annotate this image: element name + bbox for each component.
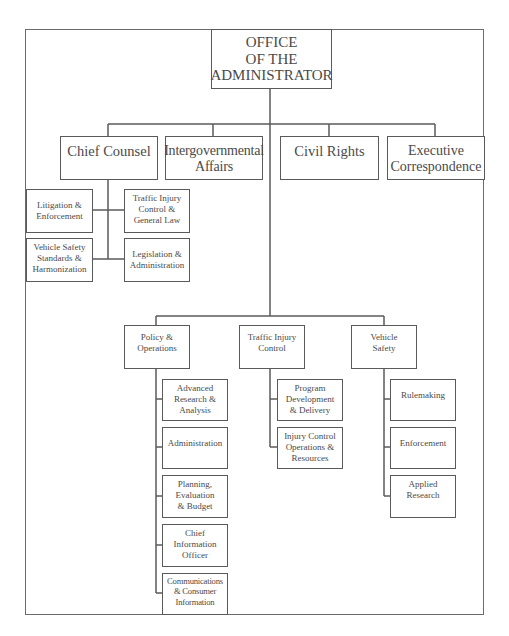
traffic-injury-control-box: Traffic Injury Control bbox=[239, 325, 305, 369]
chief-information-officer-box: Chief Information Officer bbox=[162, 524, 228, 567]
rulemaking-box: Rulemaking bbox=[390, 379, 456, 421]
vehicle-safety-standards-harmonization-label: Vehicle Safety Standards & Harmonization bbox=[33, 242, 87, 275]
advanced-research-analysis-label: Advanced Research & Analysis bbox=[174, 383, 216, 416]
executive-correspondence-label: Executive Correspondence bbox=[391, 143, 482, 175]
policy-operations-box: Policy & Operations bbox=[124, 325, 190, 369]
policy-operations-label: Policy & Operations bbox=[137, 332, 177, 354]
communications-consumer-information-box: Communications & Consumer Information bbox=[162, 573, 228, 615]
legislation-administration-box: Legislation & Administration bbox=[124, 238, 190, 282]
administration-box: Administration bbox=[162, 427, 228, 469]
traffic-injury-control-general-law-label: Traffic Injury Control & General Law bbox=[133, 193, 182, 226]
planning-evaluation-budget-box: Planning, Evaluation & Budget bbox=[162, 475, 228, 518]
administration-label: Administration bbox=[168, 438, 223, 449]
injury-control-operations-resources-box: Injury Control Operations & Resources bbox=[277, 427, 343, 469]
program-development-delivery-label: Program Development & Delivery bbox=[286, 383, 335, 416]
applied-research-label: Applied Research bbox=[407, 479, 440, 501]
office-of-the-administrator-box: OFFICE OF THE ADMINISTRATOR bbox=[211, 29, 332, 89]
program-development-delivery-box: Program Development & Delivery bbox=[277, 379, 343, 421]
intergovernmental-affairs-box: Intergovernmental Affairs bbox=[165, 136, 263, 180]
planning-evaluation-budget-label: Planning, Evaluation & Budget bbox=[176, 479, 215, 512]
vehicle-safety-label: Vehicle Safety bbox=[371, 332, 398, 354]
traffic-injury-control-label: Traffic Injury Control bbox=[248, 332, 297, 354]
advanced-research-analysis-box: Advanced Research & Analysis bbox=[162, 379, 228, 421]
enforcement-label: Enforcement bbox=[400, 438, 446, 449]
chief-information-officer-label: Chief Information Officer bbox=[174, 528, 217, 561]
connector-lines bbox=[0, 0, 509, 636]
communications-consumer-information-label: Communications & Consumer Information bbox=[167, 576, 223, 607]
chief-counsel-label: Chief Counsel bbox=[67, 143, 150, 160]
rulemaking-label: Rulemaking bbox=[401, 390, 445, 401]
litigation-enforcement-box: Litigation & Enforcement bbox=[26, 189, 93, 233]
clipped-caption bbox=[25, 631, 425, 636]
vehicle-safety-standards-harmonization-box: Vehicle Safety Standards & Harmonization bbox=[26, 238, 93, 282]
litigation-enforcement-label: Litigation & Enforcement bbox=[36, 200, 82, 222]
vehicle-safety-box: Vehicle Safety bbox=[351, 325, 417, 369]
traffic-injury-control-general-law-box: Traffic Injury Control & General Law bbox=[124, 189, 190, 233]
executive-correspondence-box: Executive Correspondence bbox=[387, 136, 485, 180]
chief-counsel-box: Chief Counsel bbox=[60, 136, 158, 180]
civil-rights-box: Civil Rights bbox=[280, 136, 379, 180]
applied-research-box: Applied Research bbox=[390, 475, 456, 518]
intergovernmental-affairs-label: Intergovernmental Affairs bbox=[164, 143, 264, 175]
enforcement-box: Enforcement bbox=[390, 427, 456, 469]
injury-control-operations-resources-label: Injury Control Operations & Resources bbox=[284, 431, 336, 464]
root-label: OFFICE OF THE ADMINISTRATOR bbox=[210, 34, 332, 84]
legislation-administration-label: Legislation & Administration bbox=[130, 249, 185, 271]
civil-rights-label: Civil Rights bbox=[294, 143, 365, 160]
